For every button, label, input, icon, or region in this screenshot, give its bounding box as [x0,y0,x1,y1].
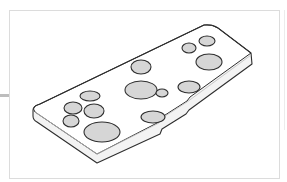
blob-11 [182,43,196,53]
blob-4 [63,115,79,127]
blob-13 [196,54,222,70]
blob-10 [141,111,165,123]
blob-5 [84,122,120,142]
blob-3 [84,104,104,118]
plate-illustration [0,0,287,182]
blob-8 [156,89,168,97]
blob-7 [125,81,157,99]
blob-9 [178,81,200,93]
blob-6 [131,60,151,74]
blob-2 [64,102,82,114]
blob-12 [199,36,215,46]
blob-1 [80,91,100,101]
